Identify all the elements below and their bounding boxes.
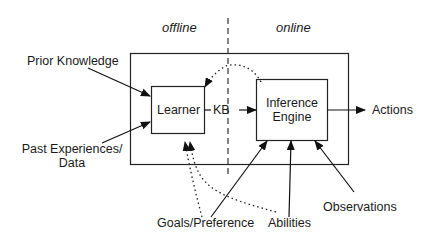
past-experiences-arrow	[102, 122, 150, 143]
inference-engine-label: Inference Engine	[256, 96, 328, 124]
past-experiences-label-line1: Past Experiences/	[20, 142, 124, 156]
abilities-to-engine-arrow	[289, 141, 291, 217]
abilities-label: Abilities	[268, 216, 311, 230]
abilities-to-learner-dotted-arrow	[190, 142, 276, 212]
kb-label: KB	[213, 103, 230, 117]
prior-knowledge-label: Prior Knowledge	[27, 54, 119, 68]
inference-engine-label-line1: Inference	[256, 96, 328, 110]
inference-engine-label-line2: Engine	[256, 110, 328, 124]
goals-preference-label: Goals/Preference	[157, 216, 254, 230]
observations-label: Observations	[323, 200, 397, 214]
offline-phase-label: offline	[162, 21, 197, 35]
learner-label: Learner	[157, 103, 200, 117]
past-experiences-label-line2: Data	[20, 156, 124, 170]
online-phase-label: online	[276, 21, 311, 35]
goals-to-engine-arrow	[211, 141, 267, 217]
goals-to-learner-dotted-arrow	[185, 142, 202, 217]
actions-label: Actions	[372, 103, 413, 117]
feedback-dotted-arrow	[205, 65, 261, 87]
prior-knowledge-arrow	[88, 68, 150, 96]
past-experiences-label: Past Experiences/ Data	[20, 142, 124, 170]
